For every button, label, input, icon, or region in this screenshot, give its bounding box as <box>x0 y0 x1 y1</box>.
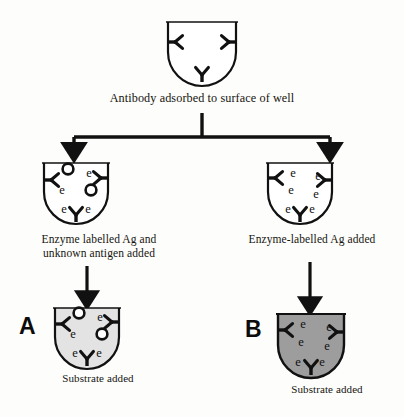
caption-right-substrate-added: Substrate added <box>252 383 402 397</box>
svg-text:e: e <box>97 310 103 324</box>
svg-text:e: e <box>313 187 319 201</box>
elisa-diagram-canvas: e e e e e e e e e e <box>0 0 404 417</box>
caption-left-enzyme-and-unknown: Enzyme labelled Ag and unknown antigen a… <box>4 233 194 260</box>
svg-text:e: e <box>300 317 306 331</box>
caption-right-enzyme-labelled: Enzyme-labelled Ag added <box>222 233 402 247</box>
svg-text:e: e <box>319 355 325 369</box>
svg-text:e: e <box>324 339 330 353</box>
caption-antibody-adsorbed: Antibody adsorbed to surface of well <box>72 92 332 106</box>
svg-text:e: e <box>86 166 92 180</box>
svg-text:e: e <box>298 335 304 349</box>
svg-text:e: e <box>85 202 91 216</box>
svg-text:e: e <box>290 166 296 180</box>
well-left-bottom: e e e e <box>53 308 121 369</box>
svg-text:e: e <box>309 202 315 216</box>
svg-text:e: e <box>285 202 291 216</box>
svg-text:e: e <box>315 169 321 183</box>
svg-text:e: e <box>59 183 65 197</box>
svg-text:e: e <box>295 355 301 369</box>
svg-text:e: e <box>61 202 67 216</box>
caption-left-substrate-added: Substrate added <box>18 372 178 386</box>
svg-text:e: e <box>96 346 102 360</box>
svg-text:e: e <box>70 327 76 341</box>
svg-text:e: e <box>326 320 332 334</box>
split-connector <box>74 113 330 146</box>
well-left-middle: e e e e <box>42 163 110 224</box>
panel-label-b: B <box>245 316 262 343</box>
svg-text:e: e <box>72 346 78 360</box>
well-top <box>166 22 238 86</box>
diagram-svg: e e e e e e e e e e <box>0 0 404 417</box>
well-right-middle: e e e e e e <box>266 163 334 224</box>
panel-label-a: A <box>19 313 36 340</box>
well-right-bottom: e e e e e e <box>276 314 346 378</box>
svg-text:e: e <box>288 183 294 197</box>
